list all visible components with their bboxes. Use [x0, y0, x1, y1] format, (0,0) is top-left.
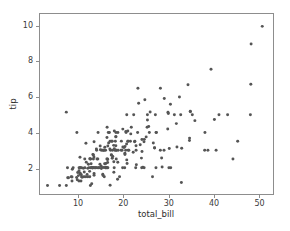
data-point	[93, 140, 96, 143]
x-tick-label: 10	[73, 200, 83, 208]
x-tick-label: 20	[118, 200, 128, 208]
data-point	[67, 176, 70, 179]
data-point	[107, 131, 110, 134]
data-point	[93, 174, 96, 177]
data-point	[153, 146, 156, 149]
data-point	[78, 166, 81, 169]
data-point	[97, 166, 100, 169]
data-point	[58, 184, 61, 187]
data-point	[118, 175, 121, 178]
data-point	[141, 150, 144, 153]
data-point	[236, 140, 239, 143]
data-point	[167, 166, 170, 169]
x-axis-label: total_bill	[138, 210, 174, 219]
data-point	[163, 149, 166, 152]
data-point	[83, 158, 86, 161]
data-point	[180, 181, 183, 184]
data-point	[129, 132, 132, 135]
data-point	[88, 170, 91, 173]
data-point	[125, 131, 128, 134]
data-point	[121, 128, 124, 131]
data-point	[71, 168, 74, 171]
matplotlib-figure: 1020304050 246810 total_bill tip	[0, 0, 290, 231]
data-point	[121, 166, 124, 169]
data-point	[114, 144, 117, 147]
y-tick-label: 2	[28, 165, 33, 173]
data-point	[105, 166, 108, 169]
data-point	[105, 136, 108, 139]
data-point	[114, 135, 117, 138]
data-point	[130, 126, 133, 129]
data-point	[125, 158, 128, 161]
data-point	[148, 131, 151, 134]
data-point	[106, 126, 109, 129]
data-point	[83, 171, 86, 174]
data-point	[101, 173, 104, 176]
data-point	[76, 171, 79, 174]
data-point	[105, 158, 108, 161]
data-point	[126, 140, 129, 143]
y-tick-mark	[36, 61, 39, 62]
data-point	[188, 137, 191, 140]
data-point	[113, 166, 116, 169]
data-point	[163, 97, 166, 100]
data-point	[97, 131, 100, 134]
data-point	[46, 184, 49, 187]
data-point	[193, 119, 196, 122]
data-point	[129, 140, 132, 143]
data-point	[149, 110, 152, 113]
data-point	[187, 83, 190, 86]
data-point	[66, 166, 69, 169]
data-point	[159, 149, 162, 152]
data-point	[126, 162, 129, 165]
data-point	[231, 158, 234, 161]
data-point	[249, 113, 252, 116]
data-point	[115, 158, 118, 161]
data-point	[135, 163, 138, 166]
data-point	[103, 175, 106, 178]
data-point	[91, 166, 94, 169]
data-point	[87, 163, 90, 166]
scatter-plot-axes	[39, 13, 274, 195]
x-tick-mark	[123, 195, 124, 198]
data-point	[106, 145, 109, 148]
data-point	[84, 175, 87, 178]
y-tick-label: 6	[28, 93, 33, 101]
data-point	[213, 118, 216, 121]
data-point	[70, 175, 73, 178]
data-point	[124, 149, 127, 152]
data-point	[189, 110, 192, 113]
scatter-points-layer	[40, 14, 273, 194]
y-tick-mark	[36, 133, 39, 134]
x-tick-label: 40	[209, 200, 219, 208]
data-point	[77, 174, 80, 177]
data-point	[151, 175, 154, 178]
data-point	[146, 118, 149, 121]
data-point	[145, 135, 148, 138]
data-point	[154, 166, 157, 169]
data-point	[179, 113, 182, 116]
data-point	[65, 111, 68, 114]
data-point	[116, 131, 119, 134]
data-point	[175, 145, 178, 148]
data-point	[178, 96, 181, 99]
data-point	[117, 149, 120, 152]
data-point	[84, 142, 87, 145]
y-axis-label: tip	[9, 98, 18, 109]
data-point	[110, 153, 113, 156]
data-point	[203, 149, 206, 152]
data-point	[99, 145, 102, 148]
data-point	[116, 178, 119, 181]
data-point	[226, 113, 229, 116]
x-tick-mark	[259, 195, 260, 198]
y-tick-mark	[36, 97, 39, 98]
data-point	[169, 103, 172, 106]
data-point	[125, 113, 128, 116]
data-point	[111, 140, 114, 143]
data-point	[78, 180, 81, 183]
data-point	[90, 162, 93, 165]
data-point	[143, 98, 146, 101]
data-point	[83, 166, 86, 169]
x-tick-label: 30	[164, 200, 174, 208]
data-point	[70, 180, 73, 183]
